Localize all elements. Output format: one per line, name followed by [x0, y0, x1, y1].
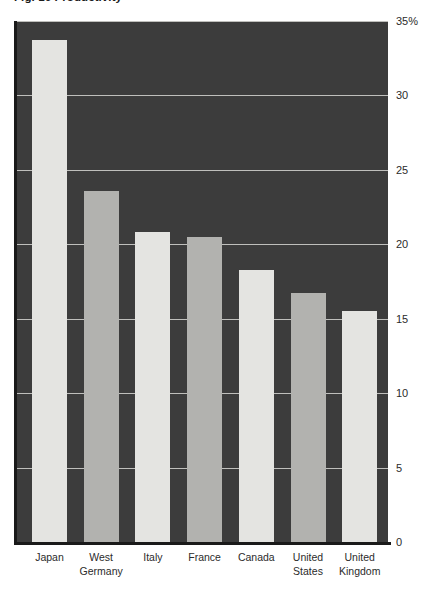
- gridline: [17, 170, 388, 171]
- plot-area: [17, 21, 388, 542]
- y-axis-tick-label: 10: [396, 388, 408, 399]
- bar: [342, 311, 377, 542]
- y-axis-tick-label: 25: [396, 165, 408, 176]
- gridline: [17, 95, 388, 96]
- gridline: [17, 21, 388, 22]
- y-axis-tick-label: 35%: [396, 16, 418, 27]
- y-axis-tick-label: 20: [396, 239, 408, 250]
- bar: [32, 40, 67, 542]
- chart-title: Fig. 16 Productivity: [14, 0, 122, 4]
- bar: [135, 232, 170, 542]
- bar: [291, 293, 326, 542]
- bar-chart: Fig. 16 Productivity 05101520253035% Jap…: [0, 0, 432, 606]
- y-axis-tick-label: 0: [396, 537, 402, 548]
- y-axis-tick-label: 15: [396, 314, 408, 325]
- y-axis-tick-label: 30: [396, 90, 408, 101]
- bar: [239, 270, 274, 542]
- bar: [84, 191, 119, 542]
- y-axis-tick-label: 5: [396, 463, 402, 474]
- x-axis-baseline: [14, 542, 391, 545]
- x-axis-category-label: United Kingdom: [330, 551, 390, 578]
- y-axis-rule: [14, 21, 17, 545]
- bar: [187, 237, 222, 542]
